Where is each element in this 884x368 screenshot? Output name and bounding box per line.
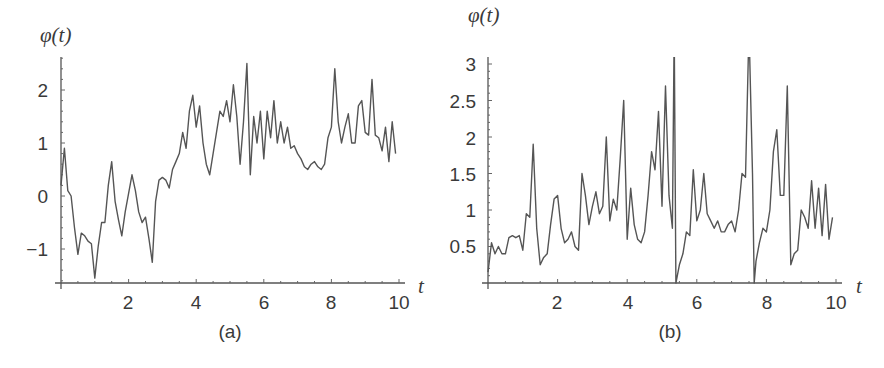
chart-a-ytick-label: −1 (26, 239, 48, 260)
chart-a-xtick-label: 6 (259, 292, 270, 313)
chart-a-line-series (61, 64, 396, 279)
chart-a-ytick-label: 1 (37, 133, 48, 154)
chart-a-xtick-label: 4 (191, 292, 202, 313)
chart-b-line-series (488, 28, 833, 284)
chart-a-xtick-label: 2 (123, 292, 134, 313)
chart-b-xtick-label: 8 (762, 292, 773, 313)
chart-a-caption: (a) (218, 321, 241, 342)
figure: 2 1 0 −1 2 4 6 8 10 φ(t) t (a) 3 2.5 2 1… (0, 0, 884, 368)
chart-b: 3 2.5 2 1.5 1 0.5 2 4 6 8 10 φ(t) t (b) (450, 3, 863, 342)
chart-b-x-axis-title: t (856, 274, 863, 298)
chart-a-y-axis-title: φ(t) (40, 23, 71, 47)
chart-a: 2 1 0 −1 2 4 6 8 10 φ(t) t (a) (26, 23, 425, 342)
chart-a-ytick-label: 0 (37, 186, 48, 207)
chart-b-xtick-label: 6 (692, 292, 703, 313)
chart-b-ytick-label: 3 (465, 54, 476, 75)
chart-b-xtick-label: 4 (623, 292, 634, 313)
chart-b-caption: (b) (658, 321, 681, 342)
chart-b-ytick-label: 2 (465, 128, 476, 149)
chart-a-x-axis-title: t (418, 274, 425, 298)
chart-a-axes (55, 57, 405, 289)
chart-b-ytick-label: 1.5 (450, 164, 476, 185)
chart-b-xtick-label: 2 (552, 292, 563, 313)
chart-b-ytick-label: 2.5 (450, 91, 476, 112)
chart-b-ytick-label: 0.5 (450, 236, 476, 257)
chart-a-ytick-label: 2 (37, 80, 48, 101)
chart-a-xtick-label: 8 (326, 292, 337, 313)
chart-b-y-axis-title: φ(t) (468, 3, 499, 27)
chart-b-ytick-label: 1 (465, 200, 476, 221)
chart-b-xtick-label: 10 (825, 292, 846, 313)
chart-a-xtick-label: 10 (388, 292, 409, 313)
